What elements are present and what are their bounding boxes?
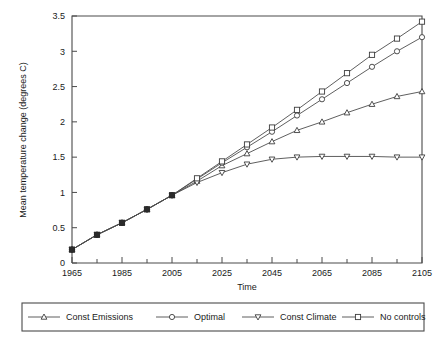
x-tick-label: 2085 — [362, 268, 382, 278]
marker-circle — [369, 64, 374, 69]
marker-circle — [319, 97, 324, 102]
marker-square — [194, 176, 199, 181]
x-tick-label: 2065 — [312, 268, 332, 278]
series-no-controls — [69, 19, 424, 252]
marker-circle — [419, 35, 424, 40]
series-layer — [69, 19, 425, 253]
x-tick-label: 2105 — [412, 268, 432, 278]
marker-square — [244, 142, 249, 147]
y-tick-label: 2.5 — [52, 82, 65, 92]
x-tick-label: 2045 — [262, 268, 282, 278]
y-tick-label: 0.5 — [52, 223, 65, 233]
marker-triangle-up — [244, 151, 250, 156]
y-tick-label: 1.5 — [52, 152, 65, 162]
series-const-emissions — [69, 89, 425, 252]
x-axis-title: Time — [237, 282, 257, 292]
legend-label: Const Climate — [280, 312, 337, 322]
series-const-climate — [69, 154, 425, 252]
marker-square — [369, 52, 374, 57]
marker-square — [119, 220, 124, 225]
x-tick-label: 1965 — [62, 268, 82, 278]
legend-label: No controls — [380, 312, 426, 322]
circle-icon — [169, 314, 174, 319]
y-axis-ticks: 00.511.522.533.5 — [52, 11, 77, 268]
marker-square — [69, 247, 74, 252]
marker-circle — [294, 113, 299, 118]
marker-square — [169, 193, 174, 198]
marker-square — [219, 159, 224, 164]
marker-square — [144, 207, 149, 212]
x-tick-label: 2025 — [212, 268, 232, 278]
legend-label: Const Emissions — [66, 312, 134, 322]
y-tick-label: 1 — [60, 188, 65, 198]
y-axis-title: Mean temperature change (degrees C) — [18, 62, 28, 218]
marker-square — [394, 36, 399, 41]
marker-circle — [344, 80, 349, 85]
x-axis-ticks: 19651985200520252045206520852105 — [62, 257, 432, 278]
marker-square — [94, 232, 99, 237]
series-path — [72, 156, 422, 249]
x-tick-label: 2005 — [162, 268, 182, 278]
y-tick-label: 3.5 — [52, 11, 65, 21]
x-tick-label: 1985 — [112, 268, 132, 278]
chart-svg: 00.511.522.533.5 19651985200520252045206… — [0, 0, 439, 339]
y-tick-label: 3 — [60, 47, 65, 57]
marker-square — [419, 19, 424, 24]
marker-square — [269, 125, 274, 130]
legend-label: Optimal — [194, 312, 225, 322]
chart-figure: 00.511.522.533.5 19651985200520252045206… — [0, 0, 439, 339]
y-tick-label: 0 — [60, 258, 65, 268]
legend: Const EmissionsOptimalConst ClimateNo co… — [22, 303, 426, 331]
square-icon — [355, 314, 360, 319]
y-tick-label: 2 — [60, 117, 65, 127]
series-path — [72, 92, 422, 250]
marker-circle — [394, 49, 399, 54]
marker-square — [294, 107, 299, 112]
marker-square — [319, 89, 324, 94]
marker-triangle-up — [419, 89, 425, 94]
marker-square — [344, 71, 349, 76]
marker-triangle-up — [269, 139, 275, 144]
